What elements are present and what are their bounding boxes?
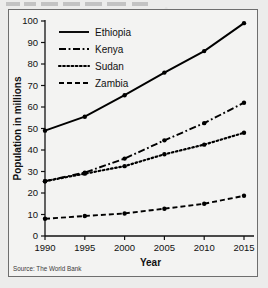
chart-figure: 0102030405060708090100 19901995200020052… <box>8 9 258 277</box>
data-point-marker <box>202 121 206 125</box>
data-point-marker <box>162 138 166 142</box>
plot-area-wrapper: 0102030405060708090100 19901995200020052… <box>9 10 257 276</box>
chart-legend: EthiopiaKenyaSudanZambia <box>59 27 132 89</box>
data-point-marker <box>83 214 87 218</box>
y-tick-label: 90 <box>27 37 38 48</box>
x-axis-tick-labels: 199019952000200520102015 <box>34 242 254 253</box>
legend-label: Zambia <box>95 78 129 89</box>
data-point-marker <box>83 171 87 175</box>
y-tick-label: 10 <box>27 209 38 220</box>
line-chart: 0102030405060708090100 19901995200020052… <box>9 10 257 276</box>
data-point-marker <box>122 93 126 97</box>
legend-item-zambia: Zambia <box>59 78 129 89</box>
data-point-marker <box>202 142 206 146</box>
legend-label: Ethiopia <box>95 27 132 38</box>
y-tick-label: 70 <box>27 80 38 91</box>
data-series-layer <box>43 21 246 221</box>
y-tick-label: 100 <box>22 15 38 26</box>
x-axis-title: Year <box>140 257 161 268</box>
x-tick-label: 1995 <box>74 242 95 253</box>
cropped-text-line <box>6 2 176 6</box>
series-sudan <box>43 131 246 184</box>
x-tick-label: 2010 <box>194 242 215 253</box>
legend-item-ethiopia: Ethiopia <box>59 27 132 38</box>
y-tick-label: 60 <box>27 101 38 112</box>
x-tick-label: 1990 <box>34 242 55 253</box>
x-tick-label: 2015 <box>233 242 254 253</box>
legend-label: Kenya <box>95 44 124 55</box>
y-tick-label: 50 <box>27 123 38 134</box>
data-point-marker <box>202 49 206 53</box>
page-top-text-fragment <box>6 0 176 8</box>
data-point-marker <box>122 164 126 168</box>
data-point-marker <box>83 114 87 118</box>
y-tick-label: 20 <box>27 187 38 198</box>
x-tick-label: 2000 <box>114 242 135 253</box>
series-line <box>45 196 244 219</box>
y-tick-label: 0 <box>33 230 38 241</box>
legend-item-sudan: Sudan <box>59 61 124 72</box>
page-canvas: 0102030405060708090100 19901995200020052… <box>0 0 268 288</box>
data-point-marker <box>242 131 246 135</box>
data-point-marker <box>43 179 47 183</box>
y-tick-label: 40 <box>27 144 38 155</box>
data-point-marker <box>242 21 246 25</box>
data-point-marker <box>43 128 47 132</box>
data-point-marker <box>43 217 47 221</box>
data-point-marker <box>162 206 166 210</box>
x-tick-label: 2005 <box>154 242 175 253</box>
y-axis-title: Population in millions <box>12 76 23 180</box>
legend-item-kenya: Kenya <box>59 44 124 55</box>
legend-label: Sudan <box>95 61 124 72</box>
data-point-marker <box>202 202 206 206</box>
series-line <box>45 23 244 130</box>
series-ethiopia <box>43 21 246 133</box>
data-point-marker <box>122 156 126 160</box>
y-tick-label: 80 <box>27 58 38 69</box>
series-kenya <box>43 101 246 184</box>
y-tick-label: 30 <box>27 166 38 177</box>
y-axis-tick-labels: 0102030405060708090100 <box>22 15 38 241</box>
chart-axes <box>45 20 254 236</box>
data-point-marker <box>242 194 246 198</box>
series-zambia <box>43 194 246 221</box>
data-point-marker <box>162 70 166 74</box>
source-note: Source: The World Bank <box>13 265 82 272</box>
data-point-marker <box>162 152 166 156</box>
data-point-marker <box>242 101 246 105</box>
data-point-marker <box>122 211 126 215</box>
